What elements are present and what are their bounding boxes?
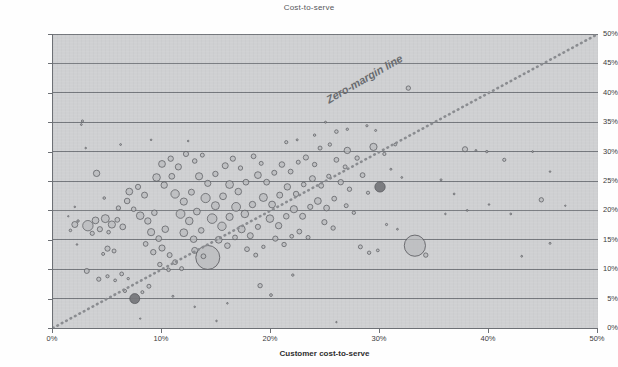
bubble (180, 229, 188, 237)
bubble (216, 320, 218, 322)
bubble-series (68, 86, 566, 323)
bubble (367, 251, 370, 254)
bubble (156, 236, 162, 242)
x-tick-label: 50% (577, 334, 617, 343)
bubble (116, 206, 120, 210)
bubble (101, 215, 109, 223)
bubble (245, 247, 250, 252)
x-tick-mark (270, 329, 271, 333)
bubble (233, 235, 238, 240)
bubble (74, 206, 76, 208)
bubble (69, 229, 72, 232)
bubble (273, 236, 278, 241)
bubble (259, 161, 263, 165)
chart-title: Cost-to-serve (0, 3, 618, 12)
bubble (385, 223, 387, 225)
bubble (175, 164, 181, 170)
bubble (324, 205, 330, 211)
bubble-highlight (375, 182, 385, 192)
bubble (269, 201, 276, 208)
bubble (532, 151, 534, 153)
bubble (243, 179, 249, 185)
bubble (124, 198, 130, 204)
x-tick-label: 10% (141, 334, 181, 343)
bubble (227, 303, 229, 305)
bubble (85, 147, 87, 149)
x-tick-label: 0% (32, 334, 72, 343)
bubble (167, 268, 171, 272)
bubble (105, 246, 110, 251)
bubble (147, 284, 151, 288)
bubble (241, 210, 249, 218)
bubble (264, 179, 270, 185)
bubble (390, 168, 392, 170)
bubble (230, 156, 235, 161)
bubble (92, 217, 99, 224)
bubble (336, 321, 337, 322)
bubble (211, 202, 219, 210)
bubble (226, 213, 233, 220)
bubble (220, 193, 227, 200)
bubble (135, 184, 140, 189)
bubble (114, 279, 117, 282)
bubble (549, 171, 551, 173)
bubble (140, 318, 141, 319)
bubble (331, 226, 335, 230)
bubble (255, 172, 262, 179)
bubble (344, 147, 350, 153)
bubble (120, 224, 126, 230)
bubble (314, 198, 321, 205)
bubble (143, 242, 148, 247)
bubble (169, 173, 175, 179)
bubble (200, 153, 204, 157)
bubble (167, 253, 172, 258)
bubble (201, 193, 210, 202)
bubble (565, 205, 566, 206)
bubble (120, 144, 122, 146)
bubble (254, 253, 258, 257)
x-tick-mark (161, 329, 162, 333)
bubble (213, 171, 218, 176)
bubble (97, 227, 102, 232)
x-tick-label: 20% (250, 334, 290, 343)
bubble (150, 139, 152, 141)
data-layer (53, 34, 598, 328)
bubble (176, 210, 185, 219)
bubble (301, 182, 306, 187)
bubble (225, 243, 231, 249)
bubble (90, 231, 94, 235)
bubble (466, 210, 468, 212)
bubble (187, 140, 189, 142)
bubble (148, 229, 155, 236)
bubble (293, 191, 298, 196)
bubble (503, 158, 506, 161)
bubble (255, 224, 260, 229)
bubble (193, 208, 200, 215)
bubble (288, 169, 293, 174)
bubble (162, 226, 169, 233)
bubble (266, 215, 274, 223)
bubble (205, 180, 211, 186)
bubble (325, 121, 327, 123)
bubble (159, 161, 166, 168)
bubble (510, 213, 512, 215)
bubble (328, 143, 331, 146)
bubble (376, 249, 379, 252)
bubble (347, 187, 351, 191)
bubble (207, 214, 217, 224)
bubble (332, 196, 337, 201)
bubble (296, 139, 298, 141)
bubble (335, 130, 339, 134)
bubble (303, 155, 308, 160)
bubble (290, 206, 297, 213)
bubble (77, 220, 79, 222)
bubble (292, 274, 294, 276)
zero-margin-line (53, 34, 598, 328)
bubble (277, 192, 283, 198)
bubble (106, 275, 109, 278)
bubble (153, 174, 161, 182)
bubble (312, 162, 316, 166)
bubble (83, 220, 93, 230)
bubble (93, 170, 99, 176)
bubble (344, 204, 348, 208)
